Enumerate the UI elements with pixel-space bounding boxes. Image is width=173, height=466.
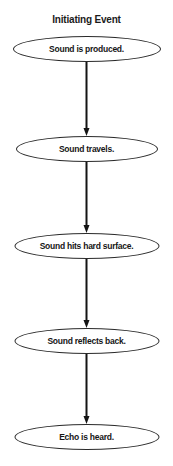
- flowchart-node-1-label: Sound is produced.: [49, 45, 124, 54]
- arrowhead-down-icon: [84, 320, 90, 328]
- flowchart-node-3-label: Sound hits hard surface.: [40, 242, 134, 251]
- flowchart-node-2: Sound travels.: [16, 136, 158, 162]
- arrowhead-down-icon: [84, 225, 90, 233]
- arrow-shaft: [86, 62, 88, 129]
- flow-arrow-3: [83, 259, 90, 328]
- arrowhead-down-icon: [84, 416, 90, 424]
- flow-arrow-4: [83, 354, 90, 424]
- flowchart-diagram: Initiating Event Sound is produced. Soun…: [0, 0, 173, 466]
- arrow-shaft: [86, 162, 88, 226]
- flow-arrow-2: [83, 162, 90, 233]
- flowchart-node-2-label: Sound travels.: [59, 145, 114, 154]
- flowchart-node-1: Sound is produced.: [13, 36, 161, 62]
- arrowhead-down-icon: [84, 128, 90, 136]
- flowchart-node-5-label: Echo is heard.: [59, 433, 114, 442]
- arrow-shaft: [86, 259, 88, 321]
- arrow-shaft: [86, 354, 88, 417]
- diagram-title: Initiating Event: [0, 14, 173, 25]
- flowchart-node-4: Sound reflects back.: [14, 328, 159, 354]
- flowchart-node-4-label: Sound reflects back.: [47, 337, 125, 346]
- flow-arrow-1: [83, 62, 90, 136]
- flowchart-node-5: Echo is heard.: [14, 424, 159, 450]
- flowchart-node-3: Sound hits hard surface.: [14, 233, 159, 259]
